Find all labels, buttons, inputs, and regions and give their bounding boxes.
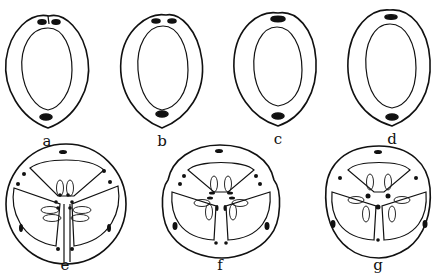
panel-label-e: e (55, 256, 75, 274)
panel-f-section (162, 145, 279, 258)
panel-a-section (6, 15, 89, 128)
panel-label-a: a (37, 132, 57, 150)
panel-label-d: d (382, 130, 402, 148)
panel-c-section (234, 13, 316, 126)
panel-label-g: g (368, 256, 388, 274)
figure-canvas (0, 0, 440, 276)
panel-label-f: f (210, 256, 230, 274)
panel-e-section (6, 144, 126, 264)
panel-g-section (326, 146, 431, 258)
panel-d-section (348, 10, 430, 126)
panel-b-section (121, 15, 203, 128)
panel-label-b: b (152, 132, 172, 150)
panel-label-c: c (268, 130, 288, 148)
